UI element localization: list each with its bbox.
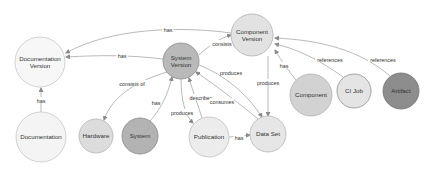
edge-line <box>66 56 163 59</box>
node-hardware[interactable]: Hardware <box>79 119 113 153</box>
edge-component-version-to-data-set: produces <box>256 56 281 116</box>
edge-label: produces <box>257 80 279 86</box>
nodes-layer: DocumentationVersionDocumentationSystemV… <box>15 14 419 162</box>
node-component-version[interactable]: ComponentVersion <box>231 14 273 56</box>
node-publication[interactable]: Publication <box>189 117 229 157</box>
node-label: Version <box>171 61 192 68</box>
node-system[interactable]: System <box>122 118 158 154</box>
node-label: Publication <box>194 133 225 140</box>
edge-system-version-to-publication: produces <box>170 79 195 123</box>
edge-label: references <box>317 57 343 63</box>
edge-label: produces <box>171 110 193 116</box>
edge-system-to-system-version: has <box>150 77 172 121</box>
edge-line <box>104 72 167 120</box>
edge-label: has <box>280 63 289 69</box>
node-documentation[interactable]: Documentation <box>16 112 66 162</box>
node-label: Version <box>30 62 51 69</box>
node-label: Version <box>242 35 263 42</box>
edge-label: consumes <box>210 99 235 105</box>
node-ci-job[interactable]: CI Job <box>337 74 371 108</box>
edge-documentation-to-doc-version: has <box>35 88 46 112</box>
node-label: Component <box>295 91 327 98</box>
edge-ci-job-to-component-version: references <box>275 44 345 77</box>
node-label: Artifact <box>391 87 411 94</box>
node-component[interactable]: Component <box>290 74 332 116</box>
node-label: System <box>171 54 192 61</box>
edge-label: has <box>118 53 127 59</box>
edge-component-to-component-version: has <box>275 50 296 80</box>
node-label: System <box>130 132 151 139</box>
edge-label: produces <box>220 70 242 76</box>
edge-line <box>66 30 231 53</box>
edge-publication-to-data-set: has <box>229 134 250 141</box>
entity-relationship-diagram: hashasconsists ofhasconsists ofhasproduc… <box>0 0 433 171</box>
edge-system-version-to-doc-version: has <box>66 52 163 59</box>
node-doc-version[interactable]: DocumentationVersion <box>15 37 65 87</box>
edge-label: has <box>37 98 46 104</box>
node-label: Component <box>236 28 268 35</box>
node-label: Hardware <box>83 132 110 139</box>
edge-system-version-to-data-set: produces <box>199 65 262 117</box>
node-label: Documentation <box>20 133 62 140</box>
edge-label: has <box>152 100 161 106</box>
node-label: Data Set <box>256 130 280 137</box>
edge-label: references <box>370 57 396 63</box>
node-artifact[interactable]: Artifact <box>383 73 419 109</box>
edge-label: consists of <box>119 81 145 87</box>
edge-label: has <box>164 27 173 33</box>
node-data-set[interactable]: Data Set <box>250 116 286 152</box>
node-label: CI Job <box>345 87 363 94</box>
edge-label: has <box>235 135 244 141</box>
node-system-version[interactable]: SystemVersion <box>163 43 199 79</box>
edge-system-version-to-hardware: consists of <box>104 72 167 120</box>
node-label: Documentation <box>19 55 61 62</box>
